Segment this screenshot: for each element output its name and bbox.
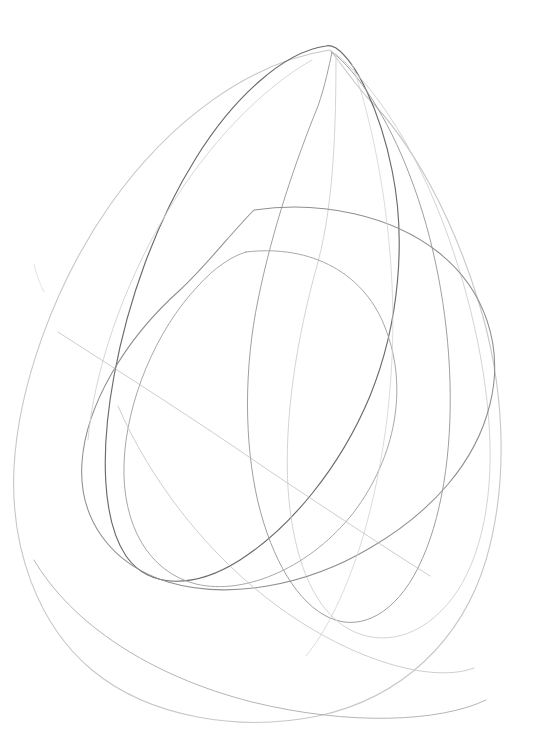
sketch-canvas: Pencil sketch of overlapping loops [0,0,538,754]
pencil-sketch-drawing: Pencil sketch of overlapping loops [0,0,538,754]
paper-background [0,0,538,754]
